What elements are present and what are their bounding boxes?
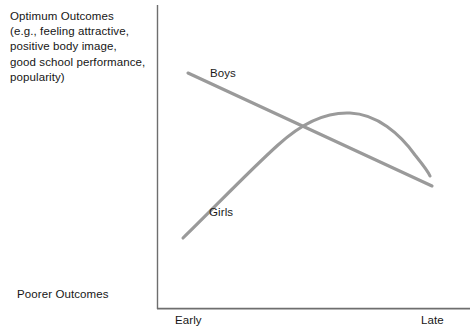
series-label-boys: Boys bbox=[210, 66, 236, 80]
series-label-girls: Girls bbox=[209, 205, 233, 219]
x-axis-tick-late: Late bbox=[421, 313, 444, 327]
y-axis-bottom-caption: Poorer Outcomes bbox=[17, 287, 109, 302]
girls-series-curve bbox=[183, 113, 430, 238]
pubertal-timing-outcomes-figure: Optimum Outcomes (e.g., feeling attracti… bbox=[0, 0, 470, 332]
x-axis-tick-early: Early bbox=[175, 313, 202, 327]
y-axis-top-caption: Optimum Outcomes (e.g., feeling attracti… bbox=[10, 9, 145, 85]
boys-series-line bbox=[188, 73, 432, 186]
